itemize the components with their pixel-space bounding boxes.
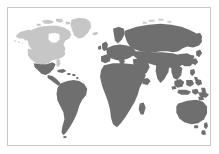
region-tasmania-shape [194, 125, 198, 128]
world-map-canvas [8, 8, 210, 145]
region-iberia-shape [101, 54, 111, 63]
region-scandinavia-shape [113, 27, 125, 44]
region-hudson-bay-shape [49, 33, 60, 43]
region-iceland-shape [92, 32, 98, 36]
region-madagascar-shape [139, 103, 146, 115]
region-tierra-del-fuego-shape [63, 136, 66, 138]
region-siberia-shape [125, 24, 202, 53]
region-florida-shape [57, 59, 61, 67]
region-arctic-islands-shape [143, 19, 172, 24]
region-aleutians-shape [14, 41, 23, 44]
region-central-america-shape [48, 75, 62, 86]
region-horn-of-africa-shape [142, 78, 151, 85]
region-canadian-arctic-shape [37, 19, 71, 28]
region-americas-south [34, 62, 87, 138]
region-north-america [14, 18, 98, 67]
region-korea-shape [191, 55, 194, 58]
region-new-zealand-shape [201, 122, 208, 135]
region-south-america-shape [57, 80, 88, 135]
region-greenland-shape [70, 18, 91, 39]
region-india-shape [156, 62, 170, 83]
map-frame-border [7, 7, 211, 146]
region-philippines-shape [190, 69, 198, 81]
region-indochina-shape [171, 65, 182, 80]
region-australia-shape [176, 100, 207, 125]
region-caribbean-shape [58, 69, 79, 79]
world-map-figure [0, 0, 219, 154]
region-mexico-shape [34, 62, 56, 75]
region-southeast-asia-islands-shape [171, 79, 206, 101]
